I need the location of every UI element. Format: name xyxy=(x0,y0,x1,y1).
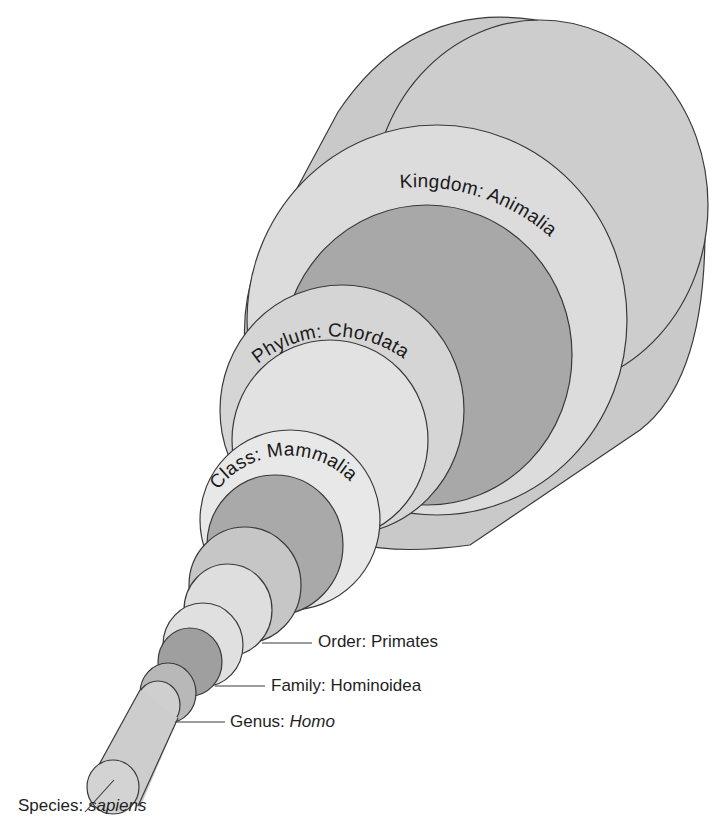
taxonomy-telescope-diagram: Kingdom: Animalia Phylum: Chordata Class… xyxy=(0,0,724,824)
genus-rank: Genus xyxy=(230,712,280,731)
species-name: sapiens xyxy=(88,796,147,815)
species-rank: Species xyxy=(18,796,78,815)
family-rank: Family xyxy=(271,676,321,695)
order-name: Primates xyxy=(371,632,438,651)
genus-name: Homo xyxy=(290,712,335,731)
family-name: Hominoidea xyxy=(331,676,422,695)
family-label: Family: Hominoidea xyxy=(271,676,421,696)
order-label: Order: Primates xyxy=(318,632,438,652)
genus-label: Genus: Homo xyxy=(230,712,335,732)
order-rank: Order xyxy=(318,632,361,651)
species-label: Species: sapiens xyxy=(18,796,147,816)
